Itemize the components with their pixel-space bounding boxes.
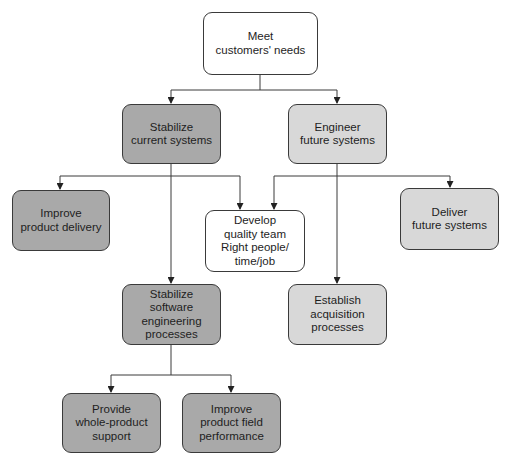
node-provide-support: Providewhole-productsupport xyxy=(62,393,161,453)
node-label-line: Establish xyxy=(314,294,361,308)
node-label-line: processes xyxy=(145,328,197,342)
node-label-line: Improve xyxy=(211,403,253,417)
edge-stabilize-software-bar xyxy=(111,345,231,375)
node-label-line: quality team xyxy=(224,228,286,242)
node-label-line: acquisition xyxy=(310,308,364,322)
node-label-line: Provide xyxy=(92,403,131,417)
node-label-line: software xyxy=(150,301,193,315)
node-label-line: customers' needs xyxy=(216,44,306,58)
node-deliver-future: Deliverfuture systems xyxy=(400,188,499,250)
node-label-line: Stabilize xyxy=(150,121,193,135)
node-label-line: future systems xyxy=(412,219,487,233)
node-label-line: current systems xyxy=(131,134,212,148)
edge-root-to-children xyxy=(171,75,337,90)
node-label-line: product field xyxy=(200,416,263,430)
node-root: Meetcustomers' needs xyxy=(203,12,318,75)
node-label-line: whole-product xyxy=(75,416,147,430)
node-improve-delivery: Improveproduct delivery xyxy=(12,190,110,251)
node-label-line: Meet xyxy=(248,30,274,44)
node-stabilize-current: Stabilizecurrent systems xyxy=(122,104,221,164)
node-stabilize-software: Stabilizesoftwareengineeringprocesses xyxy=(122,284,221,345)
node-label-line: processes xyxy=(311,321,363,335)
node-label-line: support xyxy=(92,430,130,444)
node-label-line: Deliver xyxy=(432,206,468,220)
node-label-line: Engineer xyxy=(314,121,360,135)
node-label-line: product delivery xyxy=(20,221,101,235)
node-label-line: future systems xyxy=(300,134,375,148)
node-label-line: Develop xyxy=(234,214,276,228)
node-label-line: Improve xyxy=(40,207,82,221)
node-label-line: performance xyxy=(199,430,264,444)
node-label-line: Right people/ xyxy=(221,241,289,255)
node-label-line: Stabilize xyxy=(150,288,193,302)
node-establish-acquisition: Establishacquisitionprocesses xyxy=(288,284,387,345)
node-label-line: engineering xyxy=(141,315,201,329)
node-engineer-future: Engineerfuture systems xyxy=(288,104,387,164)
node-develop-team: Developquality teamRight people/time/job xyxy=(205,210,305,272)
node-label-line: time/job xyxy=(235,255,275,269)
node-improve-field: Improveproduct fieldperformance xyxy=(182,393,281,453)
